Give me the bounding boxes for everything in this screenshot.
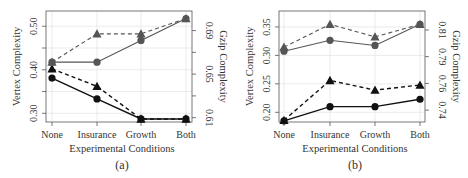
circle-marker	[371, 42, 378, 49]
chart-a: 0.300.400.500.610.650.69NoneInsuranceGro…	[0, 0, 234, 178]
y-left-tick-label: 0.30	[28, 105, 39, 123]
x-tick-label: Insurance	[78, 129, 117, 140]
x-tick-label: Both	[176, 129, 195, 140]
series-triangle-left	[279, 76, 424, 124]
series-triangle-right	[279, 20, 424, 51]
y-left-tick-label: 0.50	[28, 17, 39, 35]
circle-marker	[93, 59, 100, 66]
y-left-tick-label: 0.20	[261, 104, 272, 122]
x-tick-label: None	[273, 129, 295, 140]
y-right-tick-label: 0.65	[204, 65, 215, 83]
y-left-axis-title: Vertex Complexity	[244, 26, 255, 106]
x-tick-label: Growth	[126, 129, 157, 140]
x-tick-label: Both	[410, 129, 429, 140]
y-left-tick-label: 0.40	[28, 61, 39, 79]
series-circle-right	[48, 15, 189, 66]
figure-caption: (b)	[348, 158, 362, 172]
triangle-marker	[325, 76, 334, 84]
circle-marker	[371, 103, 378, 110]
y-right-tick-label: 0.81	[437, 21, 448, 39]
x-tick-label: Growth	[360, 129, 391, 140]
y-right-tick-label: 0.79	[437, 48, 448, 66]
x-tick-label: Insurance	[311, 129, 350, 140]
series-circle-left	[280, 96, 423, 125]
circle-marker	[48, 74, 55, 81]
y-left-tick-label: 0.30	[261, 47, 272, 65]
triangle-marker	[279, 43, 288, 51]
circle-marker	[416, 96, 423, 103]
series-circle-right	[280, 21, 423, 55]
y-left-axis-title: Vertex Complexity	[11, 26, 22, 106]
triangle-marker	[415, 80, 424, 88]
grid	[46, 11, 192, 122]
triangle-marker	[92, 82, 101, 90]
x-axis-title: Experimental Conditions	[69, 143, 174, 154]
y-right-tick-label: 0.74	[437, 101, 448, 119]
x-axis-title: Experimental Conditions	[302, 143, 407, 154]
y-left-tick-label: 0.35	[261, 18, 272, 36]
circle-marker	[137, 37, 144, 44]
y-right-axis-title: Gzip Complexity	[218, 30, 229, 103]
y-right-tick-label: 0.76	[437, 75, 448, 93]
series-circle-left	[48, 74, 189, 122]
figure-caption: (a)	[115, 158, 128, 172]
y-right-tick-label: 0.69	[204, 22, 215, 39]
triangle-marker	[325, 20, 334, 28]
y-right-axis-title: Gzip Complexity	[451, 30, 462, 103]
y-left-tick-label: 0.25	[261, 75, 272, 93]
circle-marker	[93, 95, 100, 102]
plot-frame	[46, 11, 192, 122]
x-tick-label: None	[41, 129, 63, 140]
circle-marker	[326, 103, 333, 110]
triangle-marker	[370, 86, 379, 94]
circle-marker	[326, 37, 333, 44]
figure: 0.300.400.500.610.650.69NoneInsuranceGro…	[0, 0, 468, 178]
y-right-tick-label: 0.61	[204, 109, 215, 127]
series-triangle-left	[47, 64, 190, 122]
series-triangle-right	[47, 14, 190, 66]
chart-b: 0.200.250.300.350.740.760.790.81NoneInsu…	[234, 0, 468, 178]
